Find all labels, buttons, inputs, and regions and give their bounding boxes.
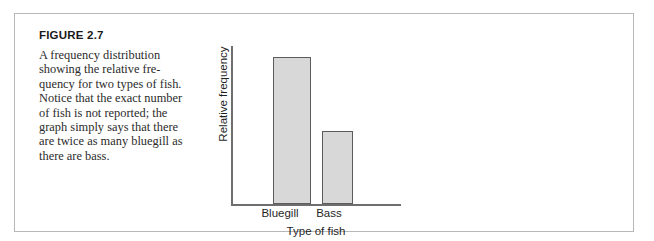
bar-bass <box>322 131 353 204</box>
x-tick-label-bass: Bass <box>307 207 351 219</box>
figure-number-label: FIGURE 2.7 <box>39 29 189 41</box>
bar-chart: Bluegill Bass Type of fish Relative freq… <box>190 28 450 241</box>
figure-box: FIGURE 2.7 A frequency distribution show… <box>14 13 634 232</box>
figure-caption-text: A frequency distribution showing the rel… <box>39 48 189 163</box>
bars-layer <box>231 46 401 204</box>
y-axis-title: Relative frequency <box>217 24 229 164</box>
x-axis-line <box>231 204 401 206</box>
x-tick-label-bluegill: Bluegill <box>250 207 310 219</box>
figure-caption-block: FIGURE 2.7 A frequency distribution show… <box>39 29 189 163</box>
bar-bluegill <box>273 57 311 204</box>
x-axis-title: Type of fish <box>231 225 401 237</box>
